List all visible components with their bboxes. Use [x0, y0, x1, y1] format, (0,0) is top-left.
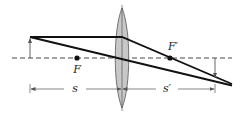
- object-distance-dimension: s: [30, 82, 121, 95]
- lens-ray-diagram: F F′ s s′: [0, 0, 246, 115]
- focal-point-f-prime-dot: [167, 55, 172, 60]
- focal-point-f-label: F: [72, 63, 81, 76]
- ray-central: [30, 37, 232, 86]
- focal-point-f-prime-label: F′: [167, 40, 179, 53]
- object-distance-label: s: [72, 82, 78, 95]
- image-distance-label: s′: [163, 82, 172, 95]
- image-distance-dimension: s′: [123, 82, 215, 95]
- focal-point-f-dot: [74, 55, 79, 60]
